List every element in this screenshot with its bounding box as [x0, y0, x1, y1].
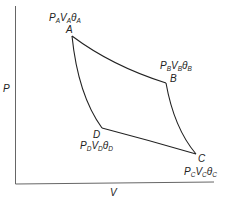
point-b-state: PBVBθB: [160, 60, 192, 72]
point-a-state: PAVAθA: [49, 12, 81, 24]
y-axis-label: P: [3, 83, 10, 94]
pv-diagram: P V A PAVAθA B PBVBθB C PCVCθC D PDVDθD: [0, 0, 226, 203]
curve-a-b: [72, 36, 166, 83]
curve-d-a: [72, 36, 102, 128]
curve-b-c: [166, 83, 196, 154]
point-d-state: PDVDθD: [80, 140, 113, 152]
point-b-label: B: [170, 73, 177, 84]
point-d-label: D: [93, 129, 100, 140]
point-a-label: A: [65, 24, 73, 35]
x-axis-label: V: [110, 187, 118, 198]
point-c-state: PCVCθC: [184, 166, 217, 178]
x-axis: [16, 182, 215, 184]
point-c-label: C: [198, 153, 206, 164]
